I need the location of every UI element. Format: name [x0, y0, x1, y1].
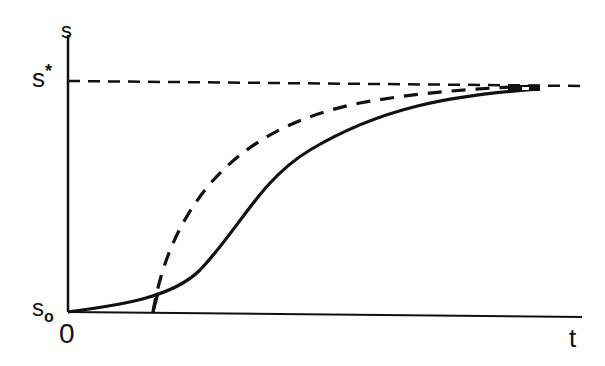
- solid-curve: [68, 89, 540, 312]
- s-star-label: s*: [32, 62, 52, 91]
- y-axis-label: s: [61, 20, 72, 42]
- s0-base: s: [32, 294, 44, 321]
- chart-plot: [0, 0, 605, 366]
- curve-merge-gap: [522, 87, 529, 90]
- s-star-base: s: [32, 63, 45, 93]
- s-star-superscript: *: [45, 61, 52, 81]
- s0-label: so: [32, 296, 54, 325]
- s0-subscript: o: [44, 308, 54, 325]
- x-axis: [68, 312, 582, 317]
- origin-label: 0: [59, 320, 75, 348]
- dashed-curve: [153, 86, 540, 312]
- x-axis-label: t: [569, 325, 576, 351]
- asymptote-line: [68, 81, 585, 86]
